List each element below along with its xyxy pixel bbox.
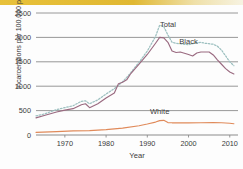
annotation-white: White	[150, 107, 169, 116]
x-tick-labels: 19701980199020002010	[57, 135, 238, 148]
x-tick-label: 2010	[222, 139, 238, 148]
x-tick-label: 1990	[139, 139, 155, 148]
y-tick-labels: 05001000150020002500	[15, 9, 31, 140]
data-series-group	[36, 25, 234, 132]
x-tick-label: 1970	[57, 139, 73, 148]
y-tick-label: 2500	[15, 9, 31, 18]
x-tick-label: 1980	[98, 139, 114, 148]
annotation-total: Total	[160, 20, 176, 29]
y-tick-label: 1500	[15, 57, 31, 66]
line-chart-plot: 05001000150020002500 1970198019902000201…	[0, 0, 243, 169]
y-tick-label: 1000	[15, 82, 31, 91]
x-axis-title: Year	[129, 151, 145, 160]
annotation-black: Black	[179, 37, 198, 46]
x-tick-label: 2000	[180, 139, 196, 148]
series-line-black	[36, 37, 234, 118]
y-tick-label: 500	[19, 106, 31, 115]
y-tick-label: 2000	[15, 33, 31, 42]
series-line-total	[36, 25, 234, 116]
series-line-white	[36, 120, 234, 132]
gridlines	[36, 13, 238, 135]
y-tick-label: 0	[27, 131, 31, 140]
series-annotations: TotalBlackWhite	[150, 20, 198, 116]
chart-container: Incarcerations per 100,000 people 050010…	[0, 0, 243, 169]
